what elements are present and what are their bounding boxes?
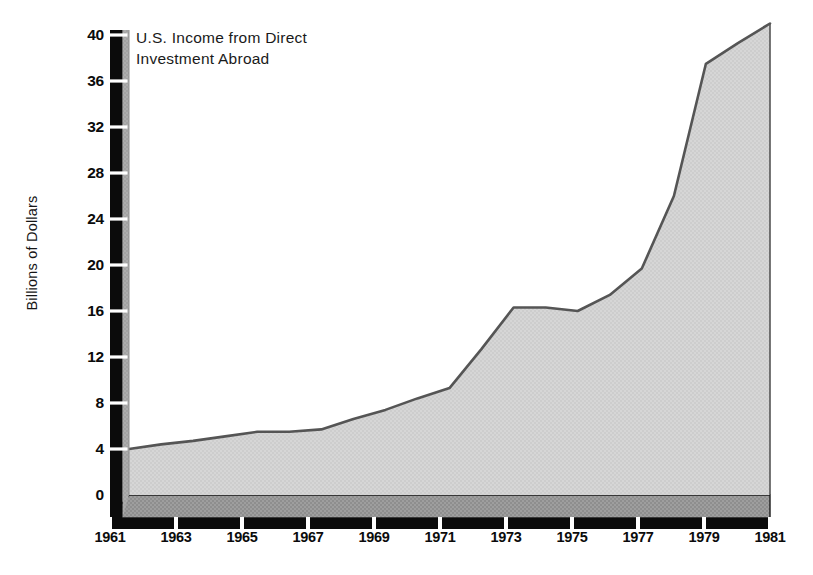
y-axis-tick: [110, 79, 128, 82]
x-axis-tick: [240, 517, 244, 530]
base-slab-face: [110, 495, 770, 518]
axis-side-face: [123, 30, 130, 518]
axis-assembly: [110, 30, 129, 518]
x-axis-tick: [570, 517, 574, 530]
x-axis-tick: [768, 517, 772, 530]
x-axis-tick: [438, 517, 442, 530]
y-axis-tick: [110, 263, 128, 266]
x-axis-bar: [108, 517, 772, 530]
x-axis-tick: [306, 517, 310, 530]
y-axis-tick: [110, 217, 128, 220]
y-axis-tick: [110, 33, 128, 36]
y-axis-tick: [110, 125, 128, 128]
data-area-series: [129, 24, 770, 496]
chart-base-slab: [110, 495, 770, 518]
chart-container: Billions of Dollars 0481216202428323640 …: [0, 0, 813, 575]
y-axis-bar: [110, 30, 123, 518]
y-axis-tick: [110, 401, 128, 404]
x-axis-tick: [108, 517, 112, 530]
y-axis-tick: [110, 447, 128, 450]
x-axis-tick: [174, 517, 178, 530]
x-axis-tick: [504, 517, 508, 530]
x-axis-tick: [636, 517, 640, 530]
y-axis-tick: [110, 171, 128, 174]
area-fill: [129, 24, 770, 496]
plot-area: [0, 0, 813, 575]
x-axis-tick: [372, 517, 376, 530]
y-axis-tick: [110, 355, 128, 358]
y-axis-tick: [110, 309, 128, 312]
x-axis-tick: [702, 517, 706, 530]
